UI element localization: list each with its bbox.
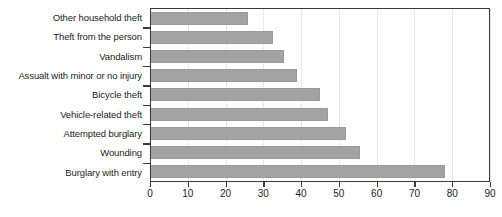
- x-tick: [377, 182, 378, 187]
- bar-row: [150, 85, 489, 104]
- x-tick: [263, 182, 264, 187]
- x-tick-label: 20: [220, 189, 231, 199]
- x-tick-label: 80: [447, 189, 458, 199]
- bar-row: [150, 162, 489, 181]
- x-axis-tick-labels: 0102030405060708090: [150, 189, 490, 205]
- bar-row: [150, 105, 489, 124]
- y-tick: [143, 85, 150, 86]
- bar: [150, 50, 284, 63]
- bar: [150, 12, 248, 25]
- x-tick: [452, 182, 453, 187]
- category-label: Other household theft: [0, 8, 148, 27]
- plot-area: [150, 8, 490, 182]
- x-tick-label: 10: [182, 189, 193, 199]
- category-label: Vehicle-related theft: [0, 105, 148, 124]
- category-label: Wounding: [0, 143, 148, 162]
- x-tick-label: 70: [409, 189, 420, 199]
- category-label: Vandalism: [0, 47, 148, 66]
- x-tick: [226, 182, 227, 187]
- x-tick-label: 50: [333, 189, 344, 199]
- category-label-column: Other household theftTheft from the pers…: [0, 8, 148, 182]
- bar: [150, 88, 320, 101]
- bar: [150, 108, 328, 121]
- x-tick-label: 30: [258, 189, 269, 199]
- y-tick: [143, 143, 150, 144]
- x-axis-ticks: [150, 182, 490, 187]
- x-tick: [490, 182, 491, 187]
- y-tick: [143, 105, 150, 106]
- y-axis-ticks: [143, 8, 151, 182]
- x-tick-label: 60: [371, 189, 382, 199]
- category-label: Bicycle theft: [0, 85, 148, 104]
- bar-row: [150, 124, 489, 143]
- x-tick-label: 0: [147, 189, 153, 199]
- x-tick-label: 90: [484, 189, 495, 199]
- bar-row: [150, 28, 489, 47]
- bar: [150, 165, 445, 178]
- bar-chart: Other household theftTheft from the pers…: [0, 0, 502, 217]
- gridline: [490, 9, 492, 181]
- y-tick: [143, 124, 150, 125]
- category-label: Assualt with minor or no injury: [0, 66, 148, 85]
- bar: [150, 69, 297, 82]
- category-label: Attempted burglary: [0, 124, 148, 143]
- bar-row: [150, 143, 489, 162]
- bar-row: [150, 47, 489, 66]
- category-label: Theft from the person: [0, 27, 148, 46]
- y-tick: [143, 66, 150, 67]
- y-tick: [143, 47, 150, 48]
- bar-row: [150, 9, 489, 28]
- y-tick: [143, 27, 150, 28]
- x-tick: [339, 182, 340, 187]
- x-tick: [188, 182, 189, 187]
- bar: [150, 127, 346, 140]
- y-tick: [143, 163, 150, 164]
- x-tick-label: 40: [296, 189, 307, 199]
- x-tick: [414, 182, 415, 187]
- bar: [150, 146, 360, 159]
- bar-row: [150, 66, 489, 85]
- x-tick: [150, 182, 151, 187]
- bar-series: [150, 9, 489, 181]
- category-label: Burglary with entry: [0, 163, 148, 182]
- x-tick: [301, 182, 302, 187]
- bar: [150, 31, 273, 44]
